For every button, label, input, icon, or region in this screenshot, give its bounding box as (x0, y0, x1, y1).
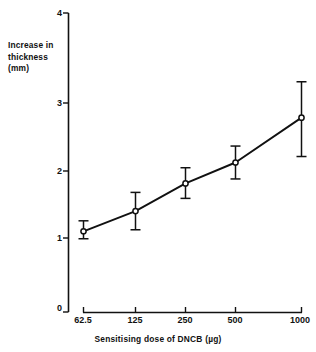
data-point-marker (81, 229, 86, 234)
data-point-marker (233, 160, 238, 165)
plot-canvas (0, 0, 316, 352)
data-point-marker (133, 208, 138, 213)
series-line (84, 118, 302, 232)
data-point-marker (299, 115, 304, 120)
data-point-markers (81, 115, 304, 234)
data-point-marker (183, 181, 188, 186)
error-bars (79, 82, 307, 239)
chart-figure: Increase in thickness (mm) 4 3 2 1 0 62.… (0, 0, 316, 352)
axis-lines (63, 13, 302, 313)
